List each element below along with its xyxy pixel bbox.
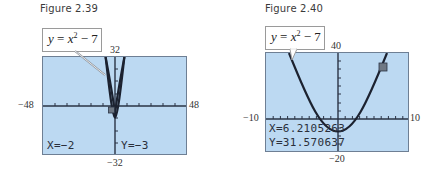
xmin-label-2-40: −10 (243, 112, 259, 123)
xmax-label-2-40: 10 (410, 112, 420, 123)
ymin-label-2-40: −20 (329, 153, 345, 164)
ymax-label-2-40: 40 (331, 40, 341, 51)
callout-pointer-2-40 (0, 0, 445, 173)
